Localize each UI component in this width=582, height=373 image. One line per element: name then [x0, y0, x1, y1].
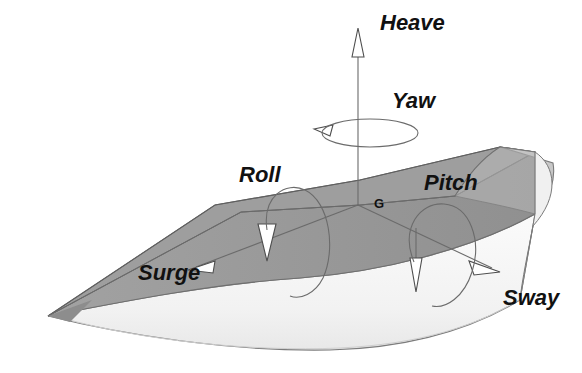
yaw-arrowhead: [314, 125, 333, 136]
label-roll: Roll: [239, 162, 281, 187]
label-yaw: Yaw: [392, 88, 437, 113]
label-sway: Sway: [503, 285, 561, 310]
ship-hull: [48, 147, 554, 350]
ship-motions-diagram: Heave Yaw Roll Pitch Surge Sway G: [0, 0, 582, 373]
label-pitch: Pitch: [424, 170, 478, 195]
diagram-canvas: Heave Yaw Roll Pitch Surge Sway G: [0, 0, 582, 373]
label-center-of-gravity: G: [374, 196, 384, 211]
yaw-rotation-ellipse: [322, 119, 418, 147]
label-surge: Surge: [138, 260, 200, 285]
heave-arrowhead: [352, 28, 364, 57]
label-heave: Heave: [380, 10, 445, 35]
